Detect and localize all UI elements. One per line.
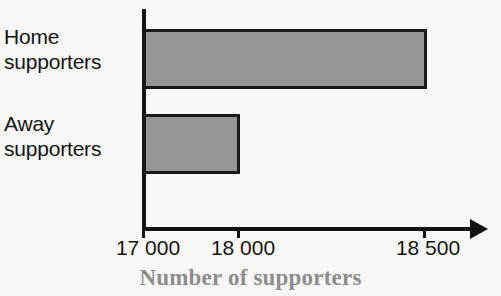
x-tick-label-18500: 18 500 (396, 236, 460, 260)
category-label-home: Home supporters (4, 24, 138, 74)
bar-chart: Home supporters Away supporters 17 000 1… (0, 0, 501, 296)
x-axis-arrow-icon (470, 219, 488, 239)
x-tick-label-17000: 17 000 (116, 236, 180, 260)
category-label-home-line1: Home (4, 24, 138, 49)
category-label-away-line1: Away (4, 111, 138, 136)
x-axis-title: Number of supporters (0, 264, 501, 291)
x-tick-label-18000: 18 000 (211, 236, 275, 260)
bar-away-supporters (143, 114, 240, 174)
category-label-away-line2: supporters (4, 136, 138, 161)
category-label-away: Away supporters (4, 111, 138, 161)
bar-home-supporters (143, 29, 427, 89)
x-axis-line (142, 227, 482, 231)
category-label-home-line2: supporters (4, 49, 138, 74)
